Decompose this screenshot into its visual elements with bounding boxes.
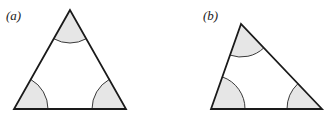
angle-fill-a-bottom-right — [92, 79, 126, 109]
angle-fill-a-bottom-left — [14, 79, 48, 109]
triangle-figure: (a) (b) — [0, 0, 329, 123]
angle-fill-b-bottom-right — [287, 84, 322, 109]
panel-b: (b) — [203, 8, 322, 109]
panel-a: (a) — [6, 8, 126, 109]
angle-fill-a-apex — [54, 10, 87, 43]
panel-a-label: (a) — [6, 8, 21, 23]
panel-b-label: (b) — [203, 8, 218, 23]
